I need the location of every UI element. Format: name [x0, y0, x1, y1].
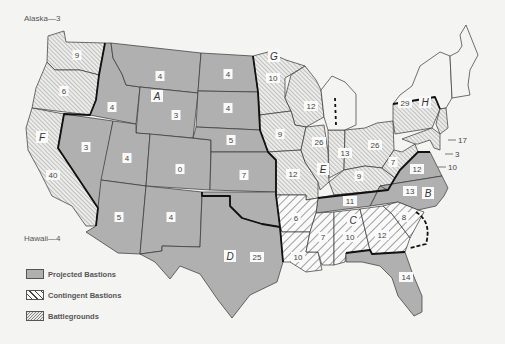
- state-electoral-votes: 9: [278, 130, 283, 139]
- battleground-swatch-icon: [26, 311, 44, 321]
- legend-item-battleground: Battlegrounds: [26, 310, 121, 322]
- state-electoral-votes: 5: [117, 213, 122, 222]
- state-wyoming: [136, 87, 198, 138]
- state-michigan: [321, 76, 356, 130]
- state-electoral-votes: 9: [75, 51, 80, 60]
- state-electoral-votes: 12: [378, 231, 387, 240]
- state-electoral-votes: 4: [169, 213, 174, 222]
- region-letter: H: [421, 97, 429, 108]
- state-electoral-votes: 25: [253, 253, 262, 262]
- legend-label: Projected Bastions: [48, 270, 116, 279]
- state-electoral-votes: 26: [371, 141, 380, 150]
- legend-item-projected: Projected Bastions: [26, 268, 121, 280]
- legend-label: Contingent Bastions: [48, 291, 121, 300]
- state-electoral-votes: 4: [226, 70, 231, 79]
- legend-label: Battlegrounds: [48, 312, 99, 321]
- state-electoral-votes: 12: [307, 102, 316, 111]
- state-electoral-votes: 14: [402, 273, 411, 282]
- state-electoral-votes: 26: [315, 138, 324, 147]
- state-electoral-votes: 6: [62, 87, 67, 96]
- alaska-note: Alaska—3: [24, 14, 60, 23]
- state-electoral-votes: 5: [229, 136, 234, 145]
- state-electoral-votes: 10: [294, 253, 303, 262]
- state-electoral-votes: 10: [269, 74, 278, 83]
- state-florida: [346, 250, 422, 316]
- state-electoral-votes: 6: [294, 214, 299, 223]
- state-electoral-votes: 13: [341, 149, 350, 158]
- state-electoral-votes: 8: [402, 213, 407, 222]
- state-electoral-votes: 13: [406, 187, 415, 196]
- projected-swatch-icon: [26, 269, 44, 279]
- state-electoral-votes: 4: [110, 103, 115, 112]
- state-colorado: [146, 134, 211, 190]
- state-electoral-votes: 40: [49, 171, 58, 180]
- state-electoral-votes: 10: [346, 233, 355, 242]
- map-legend: Projected Bastions Contingent Bastions B…: [26, 268, 121, 331]
- state-electoral-votes: 29: [401, 99, 410, 108]
- region-letter: A: [153, 91, 161, 102]
- state-electoral-votes: 7: [242, 171, 247, 180]
- callout-value: 10: [448, 163, 457, 172]
- state-electoral-votes: 11: [346, 197, 355, 206]
- region-letter: D: [226, 251, 233, 262]
- region-letter: E: [320, 164, 327, 175]
- state-new-england: [450, 25, 478, 98]
- hawaii-note: Hawaii—4: [24, 234, 60, 243]
- state-electoral-votes: 12: [413, 165, 422, 174]
- callout-value: 17: [458, 136, 467, 145]
- state-electoral-votes: 4: [125, 154, 130, 163]
- state-electoral-votes: 12: [289, 170, 298, 179]
- callout-value: 3: [455, 150, 460, 159]
- region-letter: F: [39, 132, 46, 143]
- state-electoral-votes: 3: [84, 143, 89, 152]
- callout-labels: 17310: [438, 136, 467, 172]
- region-letter: B: [425, 188, 432, 199]
- region-letter: G: [270, 51, 278, 62]
- state-electoral-votes: 7: [391, 158, 396, 167]
- legend-item-contingent: Contingent Bastions: [26, 289, 121, 301]
- state-electoral-votes: 4: [158, 72, 163, 81]
- state-electoral-votes: 4: [226, 104, 231, 113]
- state-electoral-votes: 3: [174, 111, 179, 120]
- region-letter: C: [349, 215, 357, 226]
- state-electoral-votes: 0: [178, 165, 183, 174]
- state-electoral-votes: 9: [357, 172, 362, 181]
- contingent-swatch-icon: [26, 290, 44, 300]
- state-electoral-votes: 7: [321, 233, 326, 242]
